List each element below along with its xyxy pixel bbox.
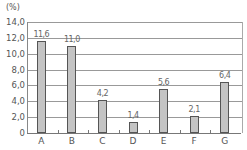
value-label: 11,6 [26, 30, 56, 39]
y-tick-label: 12,0 [6, 32, 25, 42]
value-label: 11,0 [57, 35, 87, 44]
x-tick-label: C [92, 136, 112, 146]
x-tick-mark [58, 130, 59, 133]
bar-a [37, 41, 46, 133]
y-tick-label: 0 [20, 128, 25, 138]
bar-b [67, 46, 76, 133]
x-tick-label: A [31, 136, 51, 146]
gridline [28, 22, 242, 23]
value-label: 1,4 [118, 111, 148, 120]
x-tick-mark [88, 130, 89, 133]
value-label: 2,1 [179, 105, 209, 114]
gridline [28, 101, 242, 102]
value-label: 6,4 [210, 71, 240, 80]
y-tick-label: 6,0 [11, 80, 25, 90]
gridline [28, 85, 242, 86]
y-tick-label: 14,0 [6, 17, 25, 27]
y-tick-label: 10,0 [6, 48, 25, 58]
gridline [28, 54, 242, 55]
x-tick-label: D [123, 136, 143, 146]
bar-g [220, 82, 229, 133]
x-tick-label: G [215, 136, 235, 146]
bar-e [159, 89, 168, 133]
y-axis-unit-label: (%) [6, 3, 20, 12]
x-tick-mark [119, 130, 120, 133]
bar-f [190, 116, 199, 133]
value-label: 5,6 [149, 78, 179, 87]
x-tick-mark [149, 130, 150, 133]
y-tick-label: 2,0 [11, 112, 25, 122]
value-label: 4,2 [87, 89, 117, 98]
y-tick-label: 4,0 [11, 96, 25, 106]
bar-c [98, 100, 107, 133]
x-tick-label: B [62, 136, 82, 146]
x-tick-label: E [154, 136, 174, 146]
x-tick-mark [180, 130, 181, 133]
x-axis-line [27, 133, 241, 134]
bar-d [129, 122, 138, 133]
x-tick-mark [210, 130, 211, 133]
x-tick-label: F [184, 136, 204, 146]
y-tick-label: 8,0 [11, 64, 25, 74]
